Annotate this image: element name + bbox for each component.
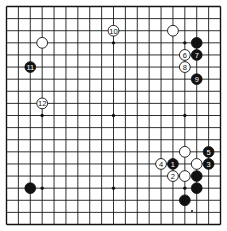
move-number: 4: [159, 160, 163, 169]
white-stone: 8: [179, 62, 190, 73]
black-stone: [179, 195, 190, 206]
star-point: [112, 114, 115, 117]
white-stone: [191, 159, 202, 170]
white-stone: 4: [156, 159, 167, 170]
black-stone: 11: [25, 62, 36, 73]
black-stone: [25, 183, 36, 194]
white-stone: 12: [37, 98, 48, 109]
white-stone: 2: [168, 171, 179, 182]
move-number: 6: [183, 51, 187, 60]
move-number: 9: [195, 75, 199, 84]
stone-circle: [179, 146, 190, 157]
star-point: [183, 114, 186, 117]
star-point: [183, 41, 186, 44]
move-number: 12: [38, 99, 46, 108]
black-stone: 3: [203, 159, 214, 170]
go-board: 123456789101112: [0, 0, 227, 231]
black-stone: 5: [203, 146, 214, 157]
stone-circle: [191, 171, 202, 182]
star-point: [183, 186, 186, 189]
move-number: 3: [207, 160, 211, 169]
stone-circle: [191, 183, 202, 194]
white-stone: [37, 37, 48, 48]
white-stone: [179, 171, 190, 182]
black-stone: 7: [191, 50, 202, 61]
star-point: [112, 186, 115, 189]
move-number: 2: [171, 172, 175, 181]
star-point: [40, 114, 43, 117]
stone-circle: [37, 37, 48, 48]
stone-circle: [179, 171, 190, 182]
mark-dot: [191, 210, 193, 212]
white-stone: 6: [179, 50, 190, 61]
stone-circle: [168, 25, 179, 36]
move-number: 11: [26, 63, 34, 72]
star-point: [112, 41, 115, 44]
white-stone: 10: [108, 25, 119, 36]
black-stone: 9: [191, 74, 202, 85]
move-number: 8: [183, 63, 187, 72]
black-stone: [191, 171, 202, 182]
marks: [191, 210, 193, 212]
move-number: 1: [171, 160, 175, 169]
stone-circle: [25, 183, 36, 194]
move-number: 5: [207, 148, 211, 157]
black-stone: [191, 37, 202, 48]
stone-circle: [191, 159, 202, 170]
move-number: 7: [195, 51, 199, 60]
black-stone: 1: [168, 159, 179, 170]
white-stone: [179, 146, 190, 157]
white-stone: [168, 25, 179, 36]
black-stone: [191, 183, 202, 194]
star-point: [40, 186, 43, 189]
stone-circle: [191, 37, 202, 48]
move-number: 10: [109, 27, 117, 36]
stone-circle: [179, 195, 190, 206]
